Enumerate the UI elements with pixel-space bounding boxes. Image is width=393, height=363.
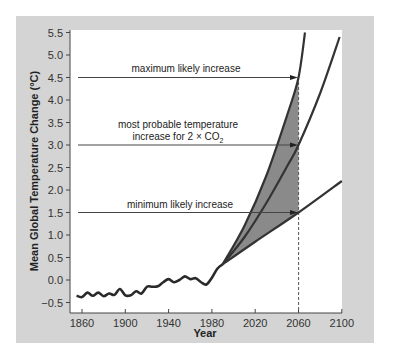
x-tick-label: 2100 (330, 317, 354, 329)
y-tick-label: 5.0 (48, 49, 63, 61)
y-tick-label: 1.0 (48, 229, 63, 241)
x-axis-title: Year (193, 327, 217, 339)
y-tick-label: 3.5 (48, 117, 63, 129)
y-tick-label: −0.5 (41, 297, 63, 309)
y-tick-label: 0.0 (48, 274, 63, 286)
x-tick-label: 2020 (243, 317, 267, 329)
y-tick-label: 4.0 (48, 94, 63, 106)
max-annotation: maximum likely increase (132, 63, 241, 74)
y-tick-label: 1.5 (48, 207, 63, 219)
y-tick-label: 0.5 (48, 252, 63, 264)
y-tick-label: 2.5 (48, 162, 63, 174)
x-tick-label: 2060 (286, 317, 310, 329)
prob-annotation-line1: most probable temperature (118, 119, 239, 130)
x-tick-label: 1940 (156, 317, 180, 329)
y-tick-label: 3.0 (48, 139, 63, 151)
y-axis-title: Mean Global Temperature Change (°C) (28, 70, 40, 271)
chart: 5.55.04.54.03.53.02.52.01.51.00.50.0−0.5… (0, 0, 393, 363)
min-annotation: minimum likely increase (127, 199, 234, 210)
y-tick-label: 4.5 (48, 72, 63, 84)
y-tick-label: 2.0 (48, 184, 63, 196)
y-tick-label: 5.5 (48, 27, 63, 39)
x-tick-label: 1900 (113, 317, 137, 329)
y-ticks: 5.55.04.54.03.53.02.52.01.51.00.50.0−0.5 (41, 27, 70, 309)
x-tick-label: 1860 (70, 317, 94, 329)
